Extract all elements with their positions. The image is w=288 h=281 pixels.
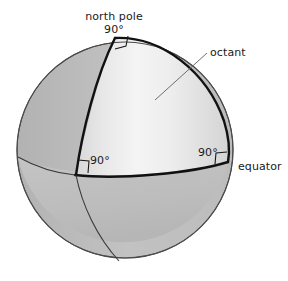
octant-label: octant [210, 46, 246, 59]
equator-label: equator [238, 160, 282, 173]
left-angle-label: 90° [90, 154, 110, 167]
sphere-octant-figure: north pole 90° octant equator 90° 90° [0, 0, 288, 281]
north-pole-label: north pole [72, 10, 156, 23]
right-angle-label: 90° [198, 146, 218, 159]
pole-angle-label: 90° [72, 23, 156, 36]
sphere-diagram [0, 0, 288, 281]
